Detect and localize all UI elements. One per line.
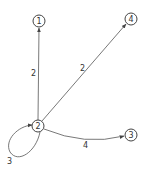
svg-text:3: 3 (128, 131, 133, 140)
weighted-digraph: 2 2 4 3 1 4 2 3 (0, 0, 147, 174)
edge-label-2-1: 2 (31, 69, 36, 78)
edge-2-to-1 (38, 28, 39, 120)
node-1: 1 (33, 15, 45, 27)
node-3: 3 (125, 129, 137, 141)
edge-label-2-3: 4 (83, 141, 88, 150)
node-4: 4 (125, 13, 137, 25)
svg-text:4: 4 (128, 15, 133, 24)
edge-label-2-2: 3 (7, 157, 12, 166)
edge-label-2-4: 2 (80, 64, 85, 73)
node-2: 2 (32, 120, 44, 132)
edge-2-to-3 (44, 129, 124, 140)
svg-text:2: 2 (35, 122, 40, 131)
svg-text:1: 1 (36, 17, 41, 26)
